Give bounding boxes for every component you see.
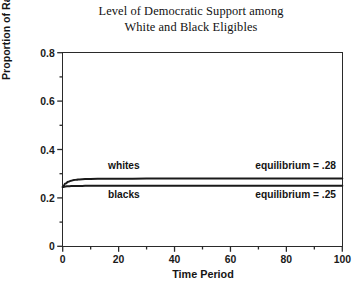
page-title: Level of Democratic Support among White … <box>36 4 346 35</box>
plot-area <box>62 52 343 247</box>
equilibrium-label-blacks: equilibrium = .25 <box>204 189 336 200</box>
x-tick-label: 60 <box>210 254 250 265</box>
x-tick-label: 20 <box>99 254 139 265</box>
equilibrium-label-whites: equilibrium = .28 <box>204 160 336 171</box>
x-tick-label: 100 <box>322 254 358 265</box>
y-tick-label: 0 <box>21 241 55 252</box>
y-tick-label: 0.2 <box>21 192 55 203</box>
x-tick-label: 40 <box>155 254 195 265</box>
y-tick-label: 0.6 <box>21 96 55 107</box>
x-axis-label: Time Period <box>62 268 344 280</box>
x-tick-label: 80 <box>266 254 306 265</box>
y-tick-label: 0.4 <box>21 144 55 155</box>
x-tick-label: 0 <box>43 254 83 265</box>
chart-figure: Level of Democratic Support among White … <box>0 0 358 298</box>
series-label-whites: whites <box>108 160 140 171</box>
series-label-blacks: blacks <box>108 189 140 200</box>
y-tick-label: 0.8 <box>21 47 55 58</box>
y-axis-label: Proportion of Racial Group Democratic <box>0 0 14 80</box>
